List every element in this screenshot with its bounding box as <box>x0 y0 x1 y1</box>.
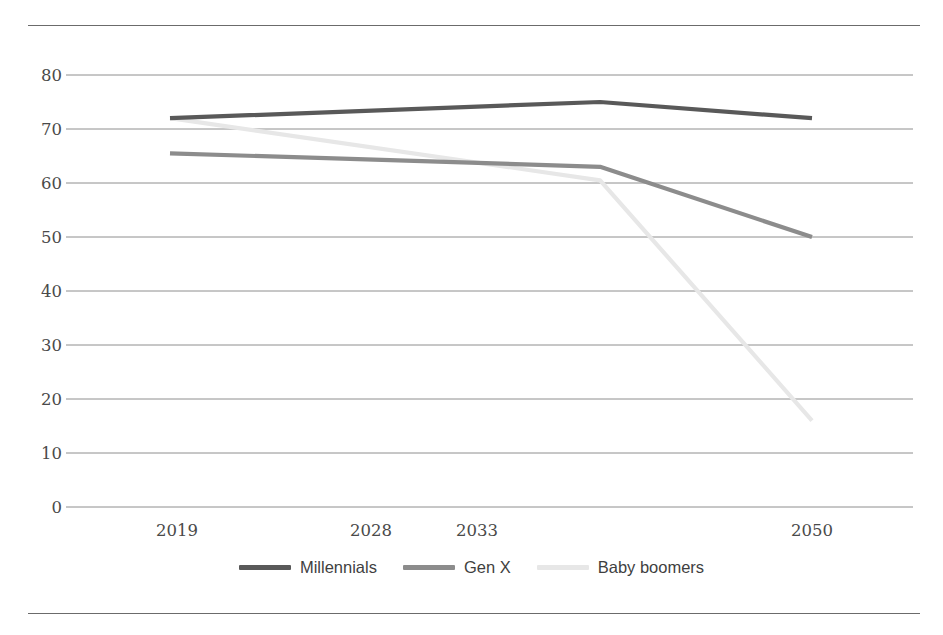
gridlines <box>66 75 913 507</box>
y-axis-tick-labels: 01020304050607080 <box>16 0 62 635</box>
legend-item-millennials[interactable]: Millennials <box>239 558 377 577</box>
legend-line-swatch-icon <box>403 565 455 570</box>
y-axis-tick-label: 0 <box>16 498 62 517</box>
y-axis-tick-label: 50 <box>16 228 62 247</box>
x-axis-tick-label: 2019 <box>156 521 198 540</box>
y-axis-tick-label: 60 <box>16 174 62 193</box>
chart-figure: 01020304050607080 2019202820332050 Mille… <box>0 0 943 635</box>
legend-item-gen-x[interactable]: Gen X <box>403 558 511 577</box>
legend-label: Baby boomers <box>598 558 704 577</box>
y-axis-tick-label: 30 <box>16 336 62 355</box>
x-axis-tick-label: 2050 <box>791 521 833 540</box>
legend-label: Millennials <box>300 558 377 577</box>
y-axis-tick-label: 70 <box>16 120 62 139</box>
x-axis-tick-label: 2033 <box>456 521 498 540</box>
series-line-millennials <box>170 102 812 118</box>
y-axis-tick-label: 10 <box>16 444 62 463</box>
chart-legend: MillennialsGen XBaby boomers <box>0 558 943 577</box>
legend-line-swatch-icon <box>239 565 291 570</box>
legend-item-baby-boomers[interactable]: Baby boomers <box>537 558 704 577</box>
y-axis-tick-label: 40 <box>16 282 62 301</box>
x-axis-tick-label: 2028 <box>350 521 392 540</box>
y-axis-tick-label: 80 <box>16 66 62 85</box>
series-lines <box>170 102 812 421</box>
y-axis-tick-label: 20 <box>16 390 62 409</box>
legend-line-swatch-icon <box>537 565 589 570</box>
legend-label: Gen X <box>464 558 511 577</box>
